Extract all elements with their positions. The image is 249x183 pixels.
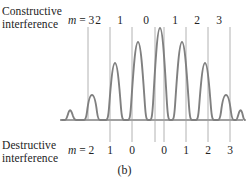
- interference-figure: Constructive interference Destructive in…: [0, 0, 249, 183]
- tick-marks-bottom: [110, 121, 230, 142]
- figure-caption: (b): [0, 163, 249, 178]
- intensity-curve: [62, 28, 245, 120]
- intensity-plot: [0, 0, 249, 183]
